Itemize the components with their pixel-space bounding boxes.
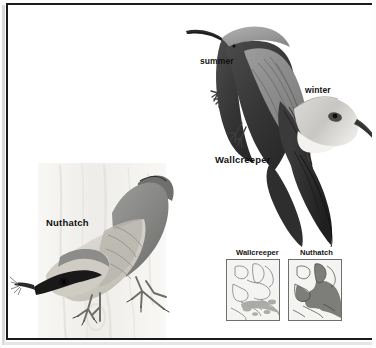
illustration-canvas: summer winter Wallcreeper Nuthatch Wallc…: [8, 5, 372, 338]
wallcreeper-wing-coverts: [244, 48, 311, 161]
frame-shadow-left: [2, 5, 5, 345]
range-map-wallcreeper-graphic: [227, 260, 279, 320]
wallcreeper-crown: [222, 26, 290, 52]
nuthatch-wing-feathers: [106, 227, 142, 279]
wallcreeper-wing-feathers: [252, 57, 305, 131]
winter-eye: [333, 114, 338, 119]
nuthatch-bill: [14, 283, 35, 290]
wallcreeper-tail: [289, 135, 332, 245]
illustration-plate: summer winter Wallcreeper Nuthatch Wallc…: [0, 0, 376, 348]
range-map-wallcreeper: [226, 259, 280, 321]
wallcreeper-bill: [186, 30, 227, 43]
winter-throat: [297, 131, 336, 153]
nuthatch-eye: [62, 280, 67, 285]
winter-bill: [354, 119, 372, 146]
wallcreeper-body: [224, 41, 296, 171]
frame-shadow-bottom: [4, 342, 372, 345]
wallcreeper-eye: [232, 44, 235, 47]
nuthatch-underparts: [48, 219, 146, 301]
nuthatch-legs: [78, 277, 166, 321]
wallcreeper-winter-figure: [294, 97, 372, 153]
nuthatch-eyestripe: [34, 270, 102, 295]
label-wallcreeper: Wallcreeper: [215, 154, 271, 165]
nuthatch-bill-debris: [10, 277, 21, 295]
nuthatch-figure: [10, 176, 174, 325]
range-map-nuthatch: [288, 259, 342, 321]
map-title-nuthatch: Nuthatch: [300, 248, 333, 257]
nuthatch-tail: [138, 176, 174, 201]
nuthatch-back: [112, 183, 169, 277]
nuthatch-head: [46, 250, 110, 297]
nuthatch-crown: [58, 249, 109, 267]
label-nuthatch: Nuthatch: [46, 217, 89, 228]
bark-backdrop: [38, 163, 166, 338]
map-title-wallcreeper: Wallcreeper: [236, 248, 279, 257]
nuthatch-wing: [98, 219, 143, 287]
wallcreeper-legs: [211, 87, 246, 147]
winter-head: [294, 97, 359, 146]
label-summer: summer: [200, 56, 234, 66]
winter-eye-patch: [327, 111, 343, 123]
range-map-nuthatch-graphic: [289, 260, 341, 320]
label-winter: winter: [305, 85, 331, 95]
frame-border-bottom: [6, 338, 372, 340]
wallcreeper-secondaries: [278, 101, 315, 197]
wallcreeper-undertail: [267, 163, 303, 247]
